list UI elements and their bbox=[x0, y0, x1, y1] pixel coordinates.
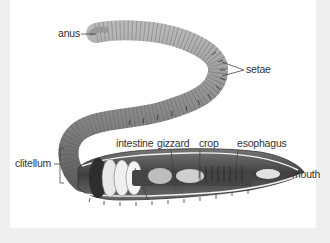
diagram-frame: anus setae clitellum intestine gizzard c… bbox=[0, 0, 330, 243]
earthworm-illustration: anus setae clitellum intestine gizzard c… bbox=[0, 0, 330, 243]
label-anus: anus bbox=[58, 27, 80, 39]
label-setae: setae bbox=[246, 63, 271, 75]
label-gizzard: gizzard bbox=[157, 137, 190, 149]
label-intestine: intestine bbox=[116, 137, 154, 149]
label-clitellum: clitellum bbox=[15, 157, 52, 169]
dissected-front-section bbox=[78, 149, 304, 206]
label-crop: crop bbox=[199, 137, 219, 149]
label-mouth: mouth bbox=[292, 168, 321, 180]
label-esophagus: esophagus bbox=[237, 137, 287, 149]
